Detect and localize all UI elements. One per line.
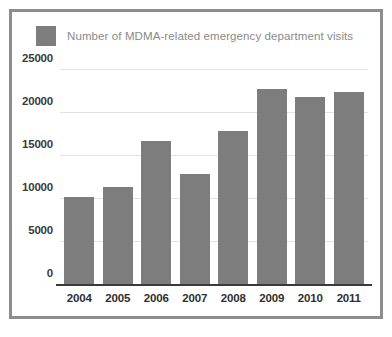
bar <box>295 97 325 285</box>
bar-slot: 2007 <box>176 70 215 285</box>
bar-slot: 2010 <box>291 70 330 285</box>
x-axis-tick-label: 2010 <box>298 292 323 304</box>
x-axis-tick-label: 2006 <box>144 292 169 304</box>
x-axis-line <box>56 284 372 286</box>
chart-figure: Number of MDMA-related emergency departm… <box>9 9 383 319</box>
x-axis-tick-label: 2009 <box>259 292 284 304</box>
y-axis-tick-label: 5000 <box>28 224 53 236</box>
bar-slot: 2011 <box>330 70 369 285</box>
bar-slot: 2005 <box>99 70 138 285</box>
bar <box>64 197 94 285</box>
bar-slot: 2006 <box>137 70 176 285</box>
bar <box>141 141 171 285</box>
chart-legend: Number of MDMA-related emergency departm… <box>36 26 353 46</box>
bar-slot: 2009 <box>253 70 292 285</box>
plot-area: 0500010000150002000025000 20042005200620… <box>60 70 368 285</box>
bar <box>218 131 248 285</box>
y-axis-tick-label: 10000 <box>22 181 53 193</box>
bar <box>180 174 210 285</box>
y-axis-tick-label: 0 <box>47 267 53 279</box>
x-axis-tick-label: 2011 <box>337 292 361 304</box>
y-axis-tick-label: 15000 <box>22 138 53 150</box>
bar-series: 20042005200620072008200920102011 <box>60 70 368 285</box>
bar <box>334 92 364 286</box>
y-axis-tick-label: 20000 <box>22 95 53 107</box>
x-axis-tick-label: 2005 <box>105 292 130 304</box>
bar-slot: 2004 <box>60 70 99 285</box>
y-axis-tick-label: 25000 <box>22 52 53 64</box>
bar-slot: 2008 <box>214 70 253 285</box>
legend-label: Number of MDMA-related emergency departm… <box>67 30 353 42</box>
x-axis-tick-label: 2007 <box>182 292 207 304</box>
x-axis-tick-label: 2004 <box>67 292 92 304</box>
legend-swatch-icon <box>36 26 56 46</box>
bar <box>257 89 287 285</box>
bar <box>103 187 133 285</box>
x-axis-tick-label: 2008 <box>221 292 246 304</box>
